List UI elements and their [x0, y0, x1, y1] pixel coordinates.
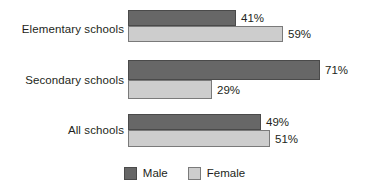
legend-label-male: Male [143, 167, 168, 179]
bar-secondary-female[interactable] [128, 80, 212, 99]
bar-elementary-female[interactable] [128, 26, 283, 42]
bar-chart: Elementary schools 41% 59% Secondary sch… [0, 0, 369, 191]
bar-group-elementary-schools: Elementary schools 41% 59% [0, 10, 369, 50]
bar-value-all-male: 49% [261, 116, 289, 128]
bar-value-secondary-female: 29% [212, 84, 240, 96]
bar-all-female[interactable] [128, 130, 270, 147]
plot-area: Elementary schools 41% 59% Secondary sch… [0, 0, 369, 158]
bar-value-elementary-male: 41% [236, 12, 264, 24]
bar-value-all-female: 51% [270, 133, 298, 145]
bar-all-male[interactable] [128, 114, 261, 130]
bar-value-elementary-female: 59% [283, 28, 311, 40]
chart-legend: Male Female [0, 162, 369, 184]
bar-group-all-schools: All schools 49% 51% [0, 112, 369, 150]
category-label-elementary-schools: Elementary schools [0, 23, 124, 35]
legend-swatch-male-icon [124, 167, 137, 180]
legend-item-male[interactable]: Male [124, 167, 168, 180]
legend-label-female: Female [207, 167, 245, 179]
legend-item-female[interactable]: Female [188, 167, 245, 180]
bar-secondary-male[interactable] [128, 60, 320, 80]
category-label-secondary-schools: Secondary schools [0, 74, 124, 86]
category-label-all-schools: All schools [0, 124, 124, 136]
legend-swatch-female-icon [188, 167, 201, 180]
bar-group-secondary-schools: Secondary schools 71% 29% [0, 60, 369, 102]
bar-value-secondary-male: 71% [320, 64, 348, 76]
bar-elementary-male[interactable] [128, 10, 236, 26]
